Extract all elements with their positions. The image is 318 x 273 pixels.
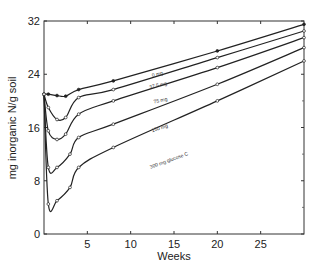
data-point — [112, 88, 115, 91]
x-axis-title: Weeks — [157, 250, 191, 262]
data-point — [64, 133, 67, 136]
data-point — [77, 113, 80, 116]
series-label: 300 mg glucose C — [149, 150, 189, 170]
data-point — [47, 166, 50, 169]
x-tick-label: 25 — [255, 238, 267, 250]
data-point — [216, 83, 219, 86]
x-tick-label: 15 — [168, 238, 180, 250]
series-label: 0 mg — [151, 69, 163, 77]
data-point — [64, 95, 67, 98]
y-tick-label: 32 — [28, 15, 40, 27]
data-point — [216, 50, 219, 53]
data-point — [69, 153, 72, 156]
data-point — [56, 118, 59, 121]
y-tick-label: 24 — [28, 68, 40, 80]
series-label: 37.5 mg — [149, 80, 168, 90]
y-tick-label: 0 — [34, 228, 40, 240]
data-point — [56, 199, 59, 202]
data-point — [77, 88, 80, 91]
y-axis-title: mg inorganic N/g soil — [6, 77, 18, 180]
data-point — [56, 138, 59, 141]
data-point — [47, 106, 50, 109]
series-labels: 0 mg37.5 mg75 mg150 mg300 mg glucose C — [149, 69, 190, 169]
data-point — [303, 23, 306, 26]
x-tick-label: 10 — [125, 238, 137, 250]
series-lines — [43, 23, 306, 212]
y-tick-label: 16 — [28, 122, 40, 134]
data-point — [303, 36, 306, 39]
data-point — [216, 66, 219, 69]
data-point — [77, 96, 80, 99]
data-point — [303, 60, 306, 63]
x-axis-ticks: 510152025 — [84, 21, 267, 250]
data-point — [47, 93, 50, 96]
series-label: 150 mg — [151, 122, 169, 133]
series-line — [44, 61, 304, 212]
data-point — [47, 203, 50, 206]
y-tick-label: 8 — [34, 175, 40, 187]
data-point — [112, 99, 115, 102]
data-point — [43, 93, 46, 96]
data-point — [69, 186, 72, 189]
data-point — [56, 94, 59, 97]
data-point — [112, 80, 115, 83]
data-point — [64, 116, 67, 119]
data-point — [77, 166, 80, 169]
data-point — [216, 99, 219, 102]
plot-frame — [44, 21, 304, 234]
line-chart: 08162432 510152025 0 mg37.5 mg75 mg150 m… — [0, 0, 318, 273]
data-point — [47, 129, 50, 132]
series-label: 75 mg — [153, 95, 168, 104]
data-point — [112, 123, 115, 126]
data-point — [216, 56, 219, 59]
x-tick-label: 5 — [84, 238, 90, 250]
series-line — [44, 24, 304, 96]
data-point — [303, 30, 306, 33]
plot-border — [44, 21, 304, 234]
x-tick-label: 20 — [211, 238, 223, 250]
data-point — [77, 136, 80, 139]
series-line — [44, 31, 304, 121]
data-point — [303, 46, 306, 49]
data-point — [112, 146, 115, 149]
data-point — [56, 166, 59, 169]
